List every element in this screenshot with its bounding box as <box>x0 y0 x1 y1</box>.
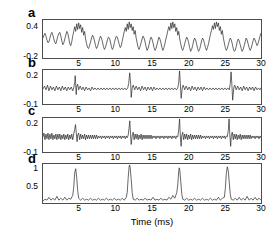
panel-c-trace <box>43 119 261 146</box>
panel-a-xtick-30: 30 <box>256 59 265 68</box>
panel-a-trace <box>43 22 261 51</box>
panel-c-plot-area <box>42 117 262 153</box>
panel-d-ytick-mid: 0.5 <box>0 182 38 191</box>
panel-a-xtick-10: 10 <box>111 59 120 68</box>
panel-c-label: c <box>28 104 35 117</box>
panel-b-xtick-25: 25 <box>221 105 230 114</box>
panel-d-xtick-10: 10 <box>111 204 120 213</box>
panel-a-xtick-15: 15 <box>147 59 156 68</box>
panel-b-label: b <box>28 56 36 69</box>
panel-c-ytick-top: 0.2 <box>0 119 38 128</box>
figure-panel-stack: a 0.4 -0.2 5 10 15 20 25 30 b 0.2 -0.1 5 <box>0 0 274 230</box>
panel-b-xtick-5: 5 <box>76 105 81 114</box>
panel-b-trace-svg <box>43 70 261 104</box>
panel-c-xtick-25: 25 <box>221 153 230 162</box>
panel-b-xticks: 5 10 15 20 25 30 <box>42 105 262 116</box>
panel-c-xtick-15: 15 <box>147 153 156 162</box>
panel-b-xtick-20: 20 <box>184 105 193 114</box>
panel-a-label: a <box>28 6 35 19</box>
panel-d-xtick-30: 30 <box>256 204 265 213</box>
panel-a-xtick-25: 25 <box>221 59 230 68</box>
panel-b-plot-area <box>42 69 262 105</box>
panel-d-xtick-20: 20 <box>184 204 193 213</box>
panel-a-xtick-5: 5 <box>76 59 81 68</box>
panel-d-xticks: 5 10 15 20 25 30 <box>42 204 262 215</box>
panel-b-xtick-10: 10 <box>111 105 120 114</box>
panel-d-xtick-25: 25 <box>221 204 230 213</box>
panel-c-xtick-20: 20 <box>184 153 193 162</box>
panel-c-xtick-10: 10 <box>111 153 120 162</box>
panel-a-ytick-top: 0.4 <box>0 22 38 31</box>
panel-c-xtick-30: 30 <box>256 153 265 162</box>
panel-d-trace-svg <box>43 164 261 203</box>
panel-a-trace-svg <box>43 20 261 58</box>
panel-d-plot-area <box>42 163 262 204</box>
panel-a-plot-area <box>42 19 262 59</box>
panel-d-xtick-15: 15 <box>147 204 156 213</box>
panel-c-xtick-5: 5 <box>76 153 81 162</box>
panel-b-ytick-top: 0.2 <box>0 71 38 80</box>
panel-d-xtick-5: 5 <box>76 204 81 213</box>
panel-b-trace <box>43 71 261 100</box>
panel-b-xtick-15: 15 <box>147 105 156 114</box>
x-axis-title: Time (ms) <box>42 216 262 227</box>
panel-b-xtick-30: 30 <box>256 105 265 114</box>
panel-a-xtick-20: 20 <box>184 59 193 68</box>
panel-d-trace <box>43 165 261 201</box>
panel-d-ytick-top: 1 <box>0 164 38 173</box>
panel-c-trace-svg <box>43 118 261 152</box>
